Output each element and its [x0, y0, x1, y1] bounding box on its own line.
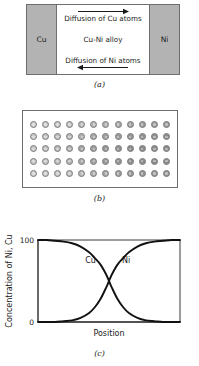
atom-4-5	[90, 170, 97, 177]
atom-2-4	[78, 145, 85, 152]
atom-0-6	[102, 121, 109, 128]
atom-4-9	[139, 170, 146, 177]
cu-metal-block: Cu	[27, 5, 57, 74]
cu-series-label: Cu	[85, 256, 96, 265]
x-axis-title: Position	[93, 329, 124, 338]
atom-0-3	[66, 121, 73, 128]
atom-0-11	[163, 121, 170, 128]
atom-2-2	[54, 145, 61, 152]
atom-1-10	[151, 133, 158, 140]
cu-metal-label: Cu	[37, 35, 47, 44]
atom-0-2	[54, 121, 61, 128]
atom-2-6	[102, 145, 109, 152]
atom-2-5	[90, 145, 97, 152]
atom-0-8	[127, 121, 134, 128]
ni-series-label: Ni	[122, 256, 130, 265]
atom-2-10	[151, 145, 158, 152]
atom-1-6	[102, 133, 109, 140]
ni-metal-label: Ni	[161, 35, 169, 44]
cu-diffusion-label: Diffusion of Cu atoms	[64, 15, 141, 22]
atom-0-9	[139, 121, 146, 128]
atom-4-8	[127, 170, 134, 177]
caption-panel-b: (b)	[0, 194, 199, 203]
atom-3-7	[115, 158, 122, 165]
atom-3-11	[163, 158, 170, 165]
atom-1-11	[163, 133, 170, 140]
atom-3-8	[127, 158, 134, 165]
atom-row	[30, 121, 170, 128]
atom-4-10	[151, 170, 158, 177]
atom-row	[30, 133, 170, 140]
atom-2-11	[163, 145, 170, 152]
atom-1-4	[78, 133, 85, 140]
atom-1-1	[42, 133, 49, 140]
atom-1-2	[54, 133, 61, 140]
cu-diffusion-group: Diffusion of Cu atoms	[64, 8, 141, 22]
atom-0-5	[90, 121, 97, 128]
atom-1-9	[139, 133, 146, 140]
atom-0-1	[42, 121, 49, 128]
atom-grid	[23, 111, 177, 187]
atom-4-7	[115, 170, 122, 177]
atom-1-8	[127, 133, 134, 140]
atom-row	[30, 170, 170, 177]
concentration-chart: 100 0 Concentration of Ni, Cu Position C…	[0, 232, 199, 348]
atom-3-10	[151, 158, 158, 165]
atom-2-8	[127, 145, 134, 152]
atom-1-7	[115, 133, 122, 140]
atom-3-5	[90, 158, 97, 165]
caption-panel-c: (c)	[0, 349, 199, 358]
atom-3-1	[42, 158, 49, 165]
panel-c-concentration-profile: 100 0 Concentration of Ni, Cu Position C…	[0, 232, 199, 348]
atom-4-1	[42, 170, 49, 177]
atom-1-3	[66, 133, 73, 140]
y-tick-label-0: 0	[29, 318, 34, 327]
atom-0-10	[151, 121, 158, 128]
atom-4-11	[163, 170, 170, 177]
atom-4-6	[102, 170, 109, 177]
cu-ni-alloy-region: Diffusion of Cu atoms Cu-Ni alloy Diffus…	[57, 5, 149, 74]
atom-0-0	[30, 121, 37, 128]
atom-4-4	[78, 170, 85, 177]
atom-3-2	[54, 158, 61, 165]
atom-1-5	[90, 133, 97, 140]
y-tick-label-100: 100	[20, 236, 35, 245]
atom-row	[30, 158, 170, 165]
atom-3-3	[66, 158, 73, 165]
atom-2-3	[66, 145, 73, 152]
atom-2-9	[139, 145, 146, 152]
atom-2-1	[42, 145, 49, 152]
atom-2-7	[115, 145, 122, 152]
ni-diffusion-label: Diffusion of Ni atoms	[65, 57, 140, 64]
panel-b-atom-lattice	[22, 110, 178, 188]
atom-4-0	[30, 170, 37, 177]
atom-3-6	[102, 158, 109, 165]
atom-3-4	[78, 158, 85, 165]
caption-panel-a: (a)	[0, 80, 199, 89]
ni-diffusion-group: Diffusion of Ni atoms	[65, 57, 140, 71]
atom-4-2	[54, 170, 61, 177]
atom-1-0	[30, 133, 37, 140]
alloy-label: Cu-Ni alloy	[84, 35, 123, 44]
y-axis-title: Concentration of Ni, Cu	[5, 234, 14, 327]
atom-0-7	[115, 121, 122, 128]
atom-4-3	[66, 170, 73, 177]
atom-3-9	[139, 158, 146, 165]
atom-0-4	[78, 121, 85, 128]
atom-3-0	[30, 158, 37, 165]
ni-metal-block: Ni	[149, 5, 179, 74]
atom-2-0	[30, 145, 37, 152]
atom-row	[30, 145, 170, 152]
ni-concentration-curve	[38, 240, 180, 322]
panel-a-diffusion-couple: Cu Diffusion of Cu atoms Cu-Ni alloy Dif…	[26, 4, 180, 75]
arrow-left-icon	[76, 64, 130, 71]
